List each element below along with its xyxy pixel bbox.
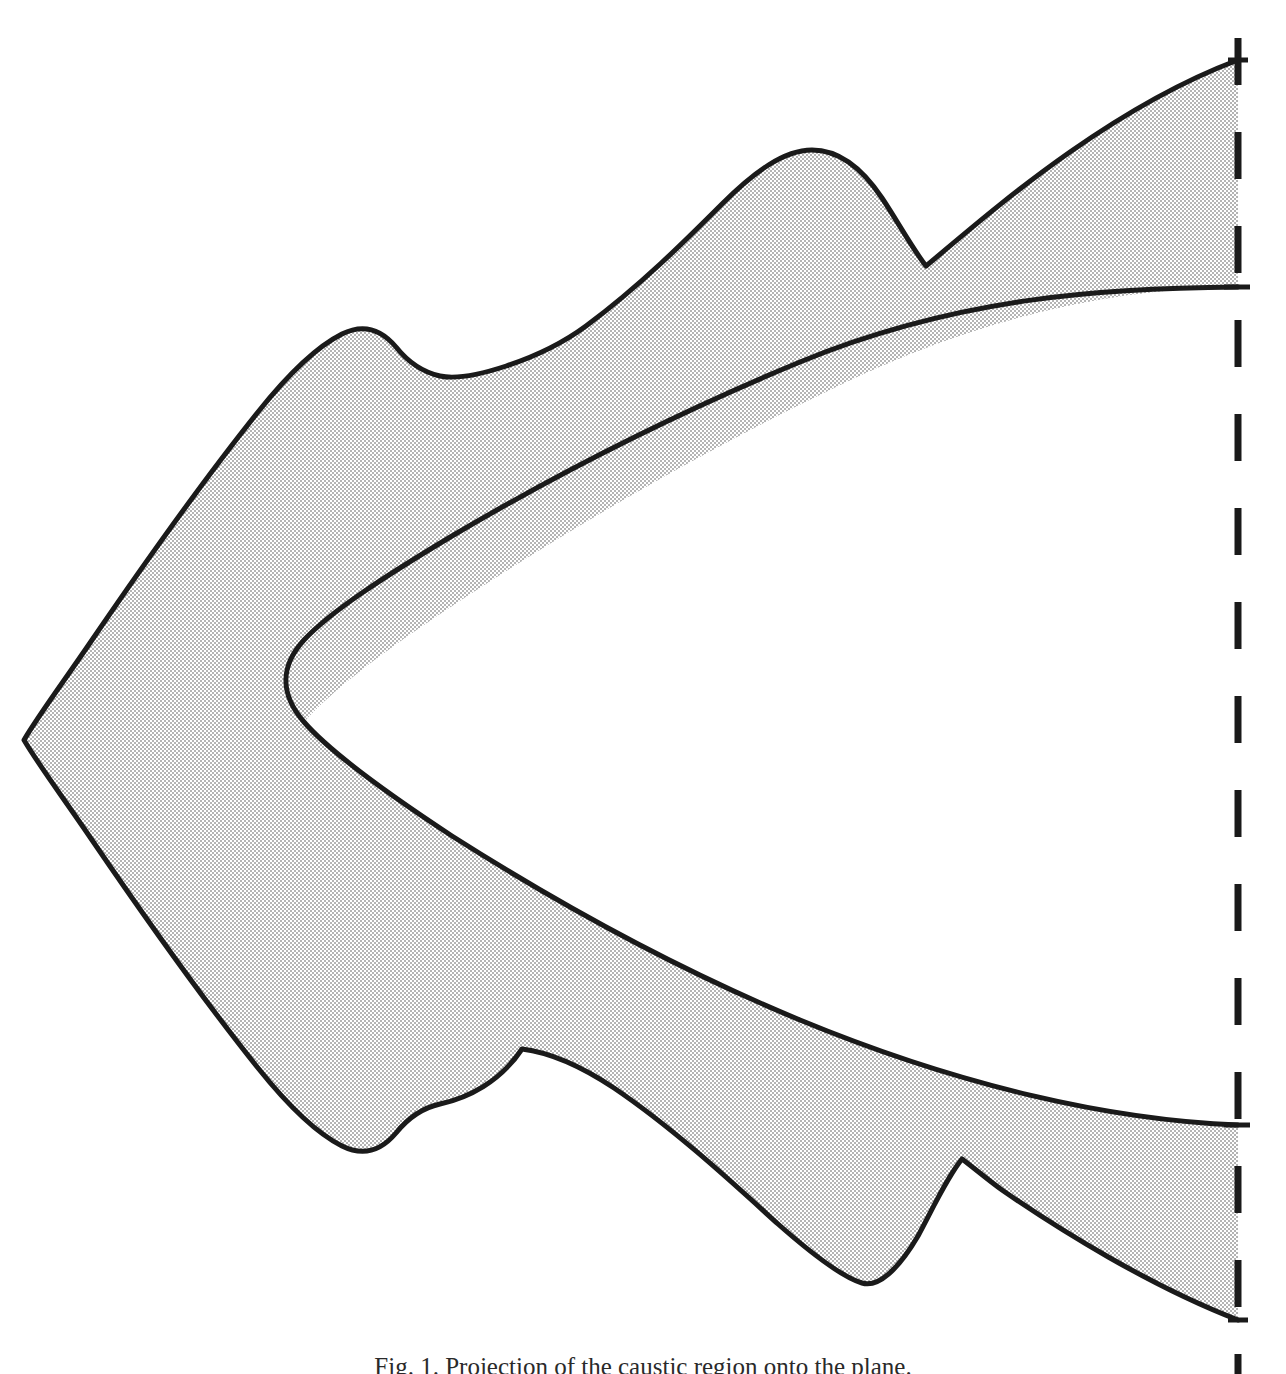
caustic-region-figure: [0, 0, 1286, 1374]
figure-caption: Fig. 1. Projection of the caustic region…: [0, 1352, 1286, 1374]
figure-container: Fig. 1. Projection of the caustic region…: [0, 0, 1286, 1374]
